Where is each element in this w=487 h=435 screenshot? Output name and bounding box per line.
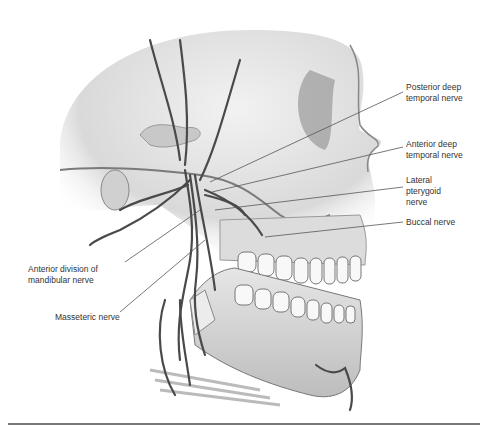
label-anterior-division-mandibular-nerve: Anterior division of mandibular nerve	[28, 264, 98, 286]
label-lateral-pterygoid-nerve: Lateral pterygoid nerve	[406, 175, 441, 208]
label-masseteric-nerve: Masseteric nerve	[55, 312, 120, 323]
label-buccal-nerve: Buccal nerve	[406, 217, 455, 228]
bottom-rule	[8, 423, 480, 425]
label-anterior-deep-temporal-nerve: Anterior deep temporal nerve	[406, 139, 463, 161]
label-posterior-deep-temporal-nerve: Posterior deep temporal nerve	[406, 82, 463, 104]
mandible	[190, 268, 362, 397]
